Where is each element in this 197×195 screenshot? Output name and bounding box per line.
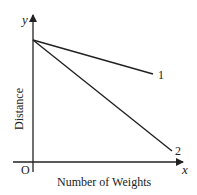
series-label-1: 1 bbox=[158, 68, 164, 82]
series-line-2 bbox=[33, 40, 172, 151]
x-axis-symbol: x bbox=[181, 162, 188, 177]
chart-canvas: y x O 1 2 Number of Weights Distance bbox=[0, 0, 197, 195]
series-label-2: 2 bbox=[175, 144, 181, 158]
y-axis-symbol: y bbox=[20, 12, 28, 27]
x-axis-label: Number of Weights bbox=[57, 175, 151, 189]
origin-label: O bbox=[21, 163, 30, 177]
y-axis-label: Distance bbox=[12, 88, 26, 130]
series-line-1 bbox=[33, 40, 153, 74]
